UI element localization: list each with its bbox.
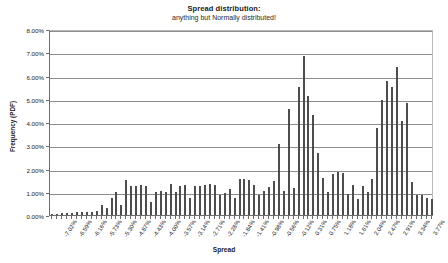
- bar: [135, 186, 137, 215]
- chart-container: Spread distribution: anything but Normal…: [0, 0, 448, 263]
- plot-area: [49, 30, 433, 216]
- x-axis-tick-label: -7.02%: [63, 219, 78, 238]
- bar: [293, 188, 295, 215]
- x-axis-tick-label: 1.61%: [358, 219, 372, 236]
- x-axis-tick-label: -0.12%: [300, 219, 315, 238]
- bar: [224, 193, 226, 215]
- bar: [376, 128, 378, 215]
- x-axis-tick-label: 2.47%: [387, 219, 401, 236]
- chart-title-block: Spread distribution: anything but Normal…: [0, 4, 448, 22]
- bar: [431, 199, 433, 215]
- bar: [120, 205, 122, 215]
- bar: [258, 195, 260, 215]
- bar: [56, 214, 58, 215]
- bar: [209, 184, 211, 215]
- bar: [111, 198, 113, 215]
- bar: [342, 173, 344, 215]
- bar: [165, 192, 167, 215]
- bar: [357, 199, 359, 215]
- x-axis-tick-label: -0.98%: [270, 219, 285, 238]
- bar: [421, 195, 423, 215]
- bar: [396, 67, 398, 215]
- chart-subtitle: anything but Normally distributed!: [0, 13, 448, 22]
- bar: [130, 186, 132, 215]
- x-axis-tick-label: 3.77%: [432, 219, 446, 236]
- x-axis-tick-label: -2.71%: [211, 219, 226, 238]
- bar: [283, 191, 285, 215]
- x-axis-tick-label: -4.43%: [152, 219, 167, 238]
- bar: [253, 185, 255, 215]
- bar: [337, 172, 339, 215]
- x-axis-title: Spread: [0, 246, 448, 253]
- bar: [96, 211, 98, 215]
- bar: [317, 153, 319, 215]
- x-axis-tick-label: 0.31%: [313, 219, 327, 236]
- bar-series: [50, 31, 432, 215]
- bar: [160, 191, 162, 215]
- y-axis-tick-label: 8.00%: [26, 27, 44, 34]
- bar: [312, 115, 314, 215]
- bar: [150, 202, 152, 215]
- bar: [263, 191, 265, 215]
- bar: [367, 192, 369, 215]
- y-axis-tick-label: 4.00%: [26, 120, 44, 127]
- bar: [273, 181, 275, 215]
- bar: [170, 184, 172, 215]
- bar: [219, 195, 221, 215]
- x-axis-tick-label: -1.41%: [255, 219, 270, 238]
- bar: [91, 212, 93, 215]
- bar: [115, 192, 117, 215]
- bar: [381, 100, 383, 215]
- x-axis-tick-label: 1.18%: [343, 219, 357, 236]
- x-axis-tick-label: -6.59%: [78, 219, 93, 238]
- bar: [125, 180, 127, 215]
- x-axis-tick-label: 3.34%: [417, 219, 431, 236]
- bar: [243, 179, 245, 215]
- bar: [307, 96, 309, 215]
- bar: [391, 87, 393, 215]
- bar: [189, 198, 191, 215]
- bar: [268, 187, 270, 215]
- x-axis-tick-label: -4.87%: [137, 219, 152, 238]
- bar: [175, 192, 177, 215]
- y-axis-tick-label: 1.00%: [26, 189, 44, 196]
- x-axis-tick-label: -3.57%: [181, 219, 196, 238]
- bar: [298, 87, 300, 215]
- x-axis-tick-label: -4.00%: [167, 219, 182, 238]
- bar: [327, 192, 329, 215]
- bar: [288, 109, 290, 215]
- bar: [248, 180, 250, 215]
- bar: [66, 213, 68, 215]
- bar: [86, 212, 88, 215]
- x-axis-tick-label: -2.28%: [226, 219, 241, 238]
- bar: [347, 194, 349, 215]
- x-axis-tick-label: -0.56%: [285, 219, 300, 238]
- y-axis-tick-label: 6.00%: [26, 73, 44, 80]
- bar: [278, 144, 280, 215]
- x-axis-tick-label: -6.16%: [93, 219, 108, 238]
- bar: [140, 185, 142, 215]
- bar: [184, 185, 186, 215]
- y-axis-tick-label: 7.00%: [26, 50, 44, 57]
- bar: [106, 208, 108, 215]
- bar: [426, 198, 428, 215]
- x-axis-tick-label: -5.73%: [108, 219, 123, 238]
- x-axis-tick-label: 2.04%: [372, 219, 386, 236]
- bar: [81, 212, 83, 215]
- bar: [362, 186, 364, 215]
- bar: [194, 186, 196, 215]
- x-axis-tick-label: -3.14%: [196, 219, 211, 238]
- bar: [332, 174, 334, 215]
- y-axis-tick-label: 3.00%: [26, 143, 44, 150]
- y-axis-tick-label: 5.00%: [26, 96, 44, 103]
- bar: [229, 189, 231, 215]
- bar: [406, 103, 408, 215]
- bar: [61, 213, 63, 215]
- bar: [199, 186, 201, 215]
- bar: [371, 179, 373, 215]
- bar: [303, 56, 305, 215]
- bar: [386, 81, 388, 215]
- bar: [411, 182, 413, 215]
- bar: [214, 185, 216, 215]
- bar: [71, 213, 73, 215]
